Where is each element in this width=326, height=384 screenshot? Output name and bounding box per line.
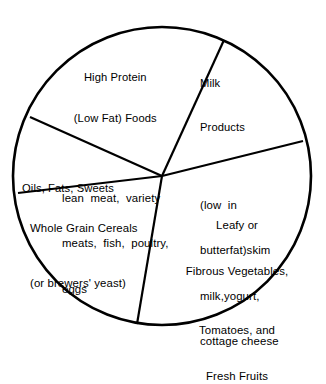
high-protein-heading-line1: High Protein [62, 71, 169, 85]
cereals-line2: (or brewers' yeast) [30, 277, 138, 291]
vegetables-line3: Tomatoes, and [172, 323, 302, 338]
vegetables-line1: Leafy or [172, 218, 302, 233]
slice-label-vegetables-fruits: Leafy or Fibrous Vegetables, Tomatoes, a… [172, 187, 302, 384]
slice-label-whole-grain-cereals: Whole Grain Cereals (or brewers' yeast) [30, 194, 138, 318]
vegetables-line4: Fresh Fruits [172, 369, 302, 384]
high-protein-heading-line2: (Low Fat) Foods [62, 112, 169, 126]
milk-heading-line1: Milk [200, 76, 279, 91]
cereals-line1: Whole Grain Cereals [30, 222, 138, 236]
vegetables-line2: Fibrous Vegetables, [172, 264, 302, 279]
milk-heading-line2: Products [200, 120, 279, 135]
